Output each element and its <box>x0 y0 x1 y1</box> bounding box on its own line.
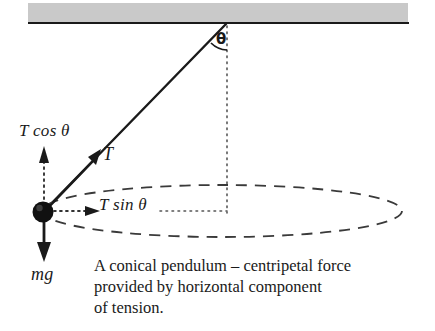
pendulum-bob-highlight <box>36 205 42 211</box>
tension-vector-line <box>46 159 95 210</box>
caption-line-3: of tension. <box>94 297 424 318</box>
caption-line-2: provided by horizontal component <box>94 276 424 297</box>
label-weight: mg <box>31 265 54 283</box>
weight-vector-arrowhead <box>37 242 51 262</box>
label-tension-vertical-component: T cos θ <box>19 122 70 139</box>
tension-horizontal-component-arrowhead <box>85 206 100 216</box>
conical-pendulum-figure: T cos θ T T sin θ mg θ A conical pendulu… <box>0 0 435 331</box>
figure-caption: A conical pendulum – centripetal force p… <box>94 255 424 318</box>
pendulum-bob <box>33 202 54 223</box>
caption-line-1: A conical pendulum – centripetal force <box>94 255 424 276</box>
label-tension-horizontal-component: T sin θ <box>99 196 147 213</box>
label-angle-theta: θ <box>216 32 226 47</box>
label-tension: T <box>103 145 113 163</box>
ceiling-bar <box>28 3 408 22</box>
tension-vertical-component-arrowhead <box>39 146 49 163</box>
